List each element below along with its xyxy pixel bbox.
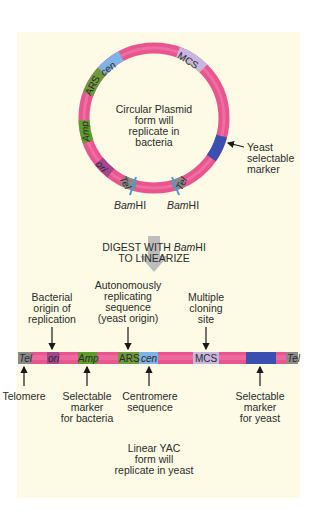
linear-mcs-label: MCS [195,353,217,364]
linear-ori-label: ori [48,353,59,364]
circular-caption: Circular Plasmid form will replicate in … [104,104,204,148]
linear-ars-label: ARS [119,353,140,364]
bamhi-left-label: BamHI [110,200,150,211]
linear-yac [18,327,298,386]
linear-amp-label: Amp [78,353,99,364]
yeast-marker-segment [211,136,221,158]
digest-instruction: DIGEST WITH BamHI TO LINEARIZE [84,242,224,264]
yeast-marker-arrow [228,143,244,147]
amp-label: Amp [79,121,92,142]
linear-cen-label: cen [141,353,157,364]
ars-description: Autonomously replicating sequence (yeast… [90,280,166,324]
telomere-description: Telomere [2,391,46,402]
linear-caption: Linear YAC form will replicate in yeast [104,443,204,476]
amp-description: Selectable marker for bacteria [58,391,116,424]
yeast-marker-description: Selectable marker for yeast [232,391,288,424]
mcs-description: Multiple cloning site [180,292,232,325]
cen-description: Centromere sequence [120,391,180,413]
ori-description: Bacterial origin of replication [22,292,82,325]
linear-yeast-marker [246,352,276,364]
linear-tel-left-label: Tel [19,353,32,364]
yeast-marker-label: Yeast selectable marker [247,142,294,175]
linear-tel-right-label: Tel [287,353,300,364]
bamhi-right-label: BamHI [163,200,203,211]
